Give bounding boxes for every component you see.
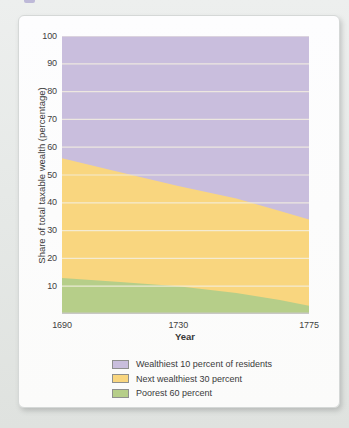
x-tick-label-1730: 1730 bbox=[161, 320, 195, 331]
x-tick-label-1690: 1690 bbox=[45, 320, 79, 331]
y-tick-label-30: 30 bbox=[0, 225, 57, 236]
legend-swatch-green bbox=[112, 389, 129, 398]
y-tick-label-20: 20 bbox=[0, 253, 57, 264]
stacked-area-plot bbox=[62, 36, 309, 314]
legend-swatch-purple bbox=[112, 360, 129, 369]
page-edge-fragment bbox=[24, 0, 35, 3]
legend-item-next-30: Next wealthiest 30 percent bbox=[112, 372, 272, 387]
y-tick-label-100: 100 bbox=[0, 31, 57, 42]
y-tick-label-50: 50 bbox=[0, 170, 57, 181]
y-tick-label-90: 90 bbox=[0, 58, 57, 69]
legend-label: Wealthiest 10 percent of residents bbox=[136, 359, 272, 369]
y-tick-label-70: 70 bbox=[0, 114, 57, 125]
scanned-page: Share of total taxable wealth (percentag… bbox=[0, 0, 349, 428]
legend-item-poorest-60: Poorest 60 percent bbox=[112, 386, 272, 401]
x-tick-label-1775: 1775 bbox=[292, 320, 326, 331]
legend-label: Poorest 60 percent bbox=[136, 388, 212, 398]
legend-label: Next wealthiest 30 percent bbox=[136, 374, 242, 384]
legend-item-wealthiest-10: Wealthiest 10 percent of residents bbox=[112, 357, 272, 372]
y-tick-label-60: 60 bbox=[0, 142, 57, 153]
y-tick-label-10: 10 bbox=[0, 281, 57, 292]
x-axis-title: Year bbox=[145, 331, 225, 342]
chart-legend: Wealthiest 10 percent of residents Next … bbox=[112, 357, 272, 401]
y-tick-label-80: 80 bbox=[0, 86, 57, 97]
y-tick-label-40: 40 bbox=[0, 197, 57, 208]
legend-swatch-yellow bbox=[112, 374, 129, 383]
